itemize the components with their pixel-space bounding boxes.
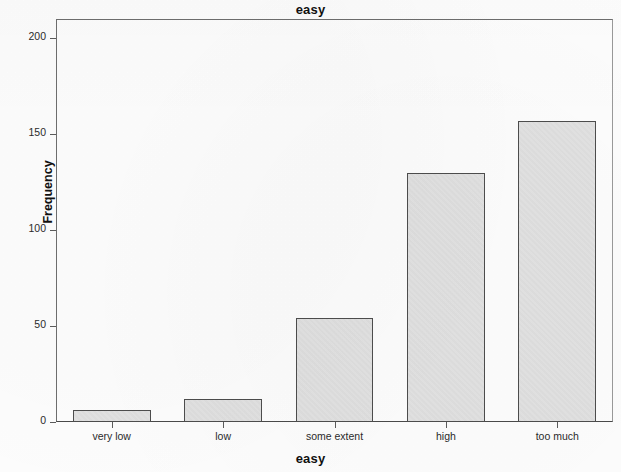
y-tick-mark [50,230,56,231]
y-tick-label: 100 [0,222,46,234]
y-tick-label: 50 [0,318,46,330]
bar [184,399,262,422]
x-tick-mark [335,422,336,428]
bar [407,173,485,422]
y-tick-label: 150 [0,126,46,138]
y-tick-mark [50,38,56,39]
bar [296,318,374,422]
x-tick-mark [223,422,224,428]
y-tick-mark [50,422,56,423]
x-tick-label: too much [502,430,613,442]
x-tick-mark [446,422,447,428]
bar [73,410,151,422]
chart-title: easy [0,2,621,17]
x-tick-mark [557,422,558,428]
bar [518,121,596,422]
x-axis-title: easy [0,451,621,466]
x-tick-label: very low [56,430,167,442]
x-tick-label: some extent [279,430,390,442]
bar-chart-figure: easy Frequency 200150100500 very lowlows… [0,0,621,472]
x-tick-label: high [390,430,501,442]
x-tick-mark [112,422,113,428]
y-tick-mark [50,134,56,135]
y-tick-label: 0 [0,414,46,426]
x-tick-label: low [167,430,278,442]
y-tick-label: 200 [0,30,46,42]
y-tick-mark [50,326,56,327]
